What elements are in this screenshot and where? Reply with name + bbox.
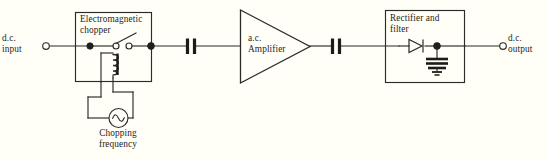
diode-triangle bbox=[409, 40, 422, 53]
rectifier-block-label: Rectifier and filter bbox=[390, 13, 462, 34]
chopper-block-label: Electromagnetic chopper bbox=[80, 14, 154, 35]
chopper-right-node bbox=[148, 43, 155, 50]
output-terminal-label: d.c. output bbox=[508, 33, 546, 54]
amplifier-block-label: a.c. Amplifier bbox=[248, 33, 308, 54]
input-terminal bbox=[43, 43, 50, 50]
switch-contact-right bbox=[126, 43, 132, 49]
circuit-diagram: Electromagnetic chopper a.c. Amplifier R… bbox=[0, 0, 548, 160]
output-terminal bbox=[500, 43, 507, 50]
chopping-frequency-label: Chopping frequency bbox=[78, 128, 158, 149]
input-terminal-label: d.c. input bbox=[2, 33, 40, 54]
chopper-left-node bbox=[87, 43, 93, 49]
filter-node bbox=[434, 43, 441, 50]
